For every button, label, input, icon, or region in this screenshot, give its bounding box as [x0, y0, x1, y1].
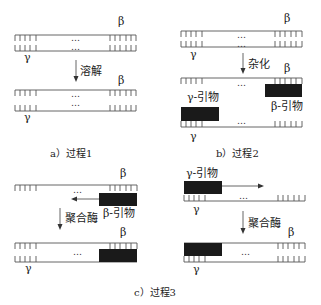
panel-a-arrowhead [74, 76, 79, 82]
panel-c-left-bottom-ellipsis: … [73, 248, 82, 256]
panel-c-left-down-arrowhead [58, 224, 63, 230]
panel-a-step-label: 溶解 [80, 62, 102, 78]
panel-c-left-bottom-gamma-label: γ [25, 263, 32, 275]
panel-a-caption: a）过程1 [50, 145, 92, 160]
panel-b-top-gamma-label: γ [190, 49, 197, 61]
panel-c-left-leftward-arrowhead [71, 197, 77, 202]
panel-a-top-ellipsis-1: … [71, 34, 80, 42]
panel-a-top-ellipsis-2: … [71, 43, 80, 51]
panel-c-left-bottom-beta-label: β [120, 227, 126, 239]
panel-b-gamma-primer-label: γ-引物 [187, 92, 219, 104]
panel-b-arrowhead [241, 68, 246, 74]
panel-a-top-beta-label: β [118, 16, 124, 28]
panel-a-bottom-gamma-label: γ [24, 112, 31, 124]
panel-b-beta-primer-bar [265, 84, 302, 97]
panel-b-top-beta-label: β [284, 13, 290, 25]
panel-c-left-beta-primer-label: β-引物 [103, 208, 135, 220]
panel-b-top-ellipsis-2: … [237, 40, 246, 48]
diagram-canvas [0, 0, 321, 305]
panel-b-step-label: 杂化 [248, 55, 270, 71]
panel-a-top-gamma-label: γ [24, 52, 31, 64]
panel-b-bottom-gamma-label: γ [190, 131, 197, 143]
panel-a-bottom-ellipsis-1: … [71, 90, 80, 98]
panel-c-left-top-ellipsis: … [73, 186, 82, 194]
panel-c-right-top-ellipsis: … [239, 192, 248, 200]
panel-b-caption: b）过程2 [216, 145, 259, 160]
panel-c-left-step-label: 聚合酶 [65, 209, 98, 225]
panel-b-mid-ellipsis: … [237, 79, 246, 87]
panel-b-bottom-ellipsis: … [237, 117, 246, 125]
panel-b-bottom-beta-label: β [284, 63, 290, 75]
panel-c-left-beta-primer-bar [99, 193, 137, 206]
panel-a-bottom-beta-label: β [118, 75, 124, 87]
panel-b-beta-primer-label: β-引物 [271, 101, 303, 113]
panel-c-left-extended-strand-bar [99, 249, 137, 262]
panel-b-top-ellipsis-1: … [237, 31, 246, 39]
panel-c-right-gamma-primer-label: γ-引物 [186, 168, 218, 180]
panel-c-right-bottom-ellipsis: … [241, 248, 250, 256]
panel-c-right-bottom-gamma-label: γ [193, 264, 200, 276]
panel-c-left-top-beta-label: β [120, 168, 126, 180]
panel-c-right-top-gamma-label: γ [193, 204, 200, 216]
panel-b-gamma-primer-bar [181, 107, 219, 121]
panel-a-bottom-ellipsis-2: … [71, 99, 80, 107]
panel-c-caption: c）过程3 [134, 284, 176, 299]
panel-c-right-rightward-arrowhead [258, 184, 264, 189]
panel-c-right-step-label: 聚合酶 [248, 214, 281, 230]
panel-c-right-bottom-beta-label: β [288, 227, 294, 239]
panel-c-right-extended-strand-bar [184, 243, 222, 256]
panel-c-right-gamma-primer-bar [184, 181, 222, 194]
panel-c-right-down-arrowhead [241, 228, 246, 234]
